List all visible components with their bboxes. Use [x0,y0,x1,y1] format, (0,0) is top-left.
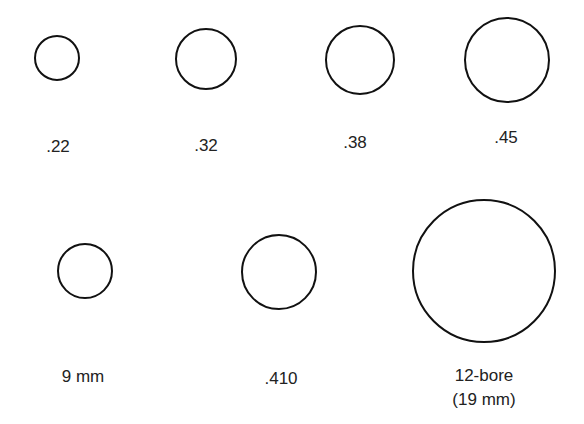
bore-label-32: .32 [194,134,218,158]
bore-label-12-bore: 12-bore (19 mm) [452,364,515,412]
bore-circle-9mm [57,243,113,299]
bore-circle-410 [241,234,317,310]
bore-label-9mm: 9 mm [62,365,105,389]
bore-label-410: .410 [264,367,297,391]
bore-circle-32 [175,28,237,90]
bore-label-38: .38 [343,131,367,155]
bore-circle-45 [464,17,550,103]
bore-circle-38 [325,25,395,95]
bore-label-12-bore-line2: (19 mm) [452,388,515,412]
bore-circle-12-bore [412,199,556,343]
bore-label-45: .45 [494,126,518,150]
bore-circle-22 [34,35,80,81]
bore-size-diagram: .22 .32 .38 .45 9 mm .410 12-bore (19 mm… [0,0,584,424]
bore-label-22: .22 [46,135,70,159]
bore-label-12-bore-line1: 12-bore [452,364,515,388]
